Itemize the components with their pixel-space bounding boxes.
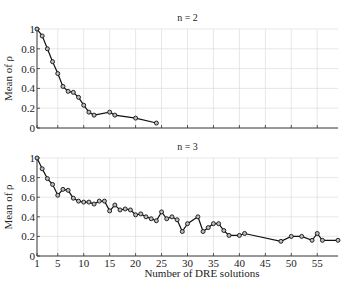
data-point-marker (134, 213, 138, 217)
y-tick-label: 0.8 (21, 43, 35, 55)
data-point-marker (71, 196, 75, 200)
data-point-marker (310, 238, 314, 242)
data-point-marker (134, 116, 138, 120)
data-point-marker (201, 230, 205, 234)
x-tick-label: 55 (312, 257, 324, 269)
data-point-marker (336, 238, 340, 242)
chart-title: n = 2 (177, 12, 198, 23)
data-point-marker (108, 110, 112, 114)
y-axis-label: Mean of ρ (2, 55, 14, 101)
data-point-marker (113, 113, 117, 117)
data-point-marker (128, 208, 132, 212)
data-point-marker (92, 202, 96, 206)
data-point-marker (87, 110, 91, 114)
data-point-marker (139, 212, 143, 216)
data-point-marker (315, 231, 319, 235)
y-tick-label: 0.2 (21, 230, 35, 242)
data-point-marker (40, 34, 44, 38)
data-point-marker (118, 208, 122, 212)
data-point-marker (237, 233, 241, 237)
y-tick-label: 0.4 (21, 211, 35, 223)
x-axis-label: Number of DRE solutions (144, 267, 259, 279)
data-point-marker (61, 187, 65, 191)
data-point-marker (289, 234, 293, 238)
data-point-marker (66, 188, 70, 192)
data-point-marker (144, 215, 148, 219)
data-point-marker (300, 234, 304, 238)
data-point-marker (45, 177, 49, 181)
data-point-marker (108, 209, 112, 213)
data-point-marker (196, 215, 200, 219)
data-point-marker (211, 222, 215, 226)
data-point-marker (77, 199, 81, 203)
data-point-marker (45, 47, 49, 51)
data-point-marker (56, 193, 60, 197)
data-point-marker (170, 215, 174, 219)
data-point-marker (56, 72, 60, 76)
chart-n2: 00.20.40.60.81n = 2Mean of ρ (2, 12, 338, 134)
x-tick-label: 15 (104, 257, 116, 269)
data-point-marker (82, 200, 86, 204)
y-tick-label: 0.2 (21, 102, 35, 114)
y-tick-label: 1 (30, 23, 36, 35)
y-tick-label: 0.4 (21, 82, 35, 94)
data-point-marker (92, 113, 96, 117)
data-point-marker (102, 199, 106, 203)
x-tick-label: 10 (78, 257, 90, 269)
y-tick-label: 0.6 (21, 63, 35, 75)
data-point-marker (77, 95, 81, 99)
data-point-marker (180, 230, 184, 234)
data-point-marker (123, 207, 127, 211)
y-tick-label: 0.6 (21, 191, 35, 203)
data-point-marker (186, 222, 190, 226)
x-tick-label: 50 (286, 257, 298, 269)
data-point-marker (40, 167, 44, 171)
x-tick-label: 1 (34, 257, 40, 269)
data-point-marker (217, 222, 221, 226)
chart-n3: 00.20.40.60.811510152025303540455055n = … (2, 141, 340, 279)
x-tick-label: 45 (260, 257, 272, 269)
y-tick-label: 0.8 (21, 172, 35, 184)
y-tick-label: 1 (30, 152, 36, 164)
data-point-marker (160, 210, 164, 214)
data-point-marker (71, 90, 75, 94)
chart-title: n = 3 (177, 141, 198, 152)
data-point-marker (279, 239, 283, 243)
data-point-marker (154, 219, 158, 223)
y-axis-label: Mean of ρ (2, 184, 14, 230)
data-point-marker (154, 121, 158, 125)
series-line (37, 29, 156, 123)
data-point-marker (149, 217, 153, 221)
data-point-marker (243, 231, 247, 235)
figure: 00.20.40.60.81n = 2Mean of ρ 00.20.40.60… (0, 0, 352, 287)
data-point-marker (61, 84, 65, 88)
x-tick-label: 5 (55, 257, 61, 269)
data-point-marker (35, 156, 39, 160)
data-point-marker (82, 103, 86, 107)
data-point-marker (87, 200, 91, 204)
data-point-marker (51, 60, 55, 64)
data-point-marker (66, 89, 70, 93)
data-point-marker (222, 229, 226, 233)
data-point-marker (35, 27, 39, 31)
x-tick-label: 20 (130, 257, 142, 269)
data-point-marker (227, 233, 231, 237)
y-tick-label: 0 (30, 122, 36, 134)
data-point-marker (165, 217, 169, 221)
data-point-marker (97, 199, 101, 203)
data-point-marker (206, 226, 210, 230)
data-point-marker (320, 238, 324, 242)
data-point-marker (51, 182, 55, 186)
data-point-marker (175, 218, 179, 222)
data-point-marker (113, 203, 117, 207)
